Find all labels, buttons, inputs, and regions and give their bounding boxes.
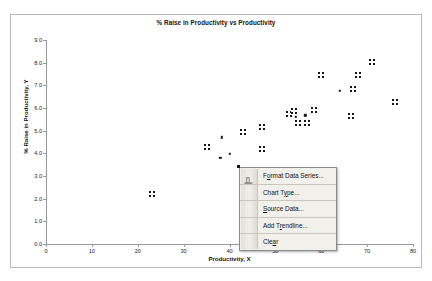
data-point-selected[interactable] bbox=[291, 108, 297, 114]
data-point[interactable] bbox=[220, 136, 222, 138]
data-point[interactable] bbox=[295, 116, 297, 118]
x-tick bbox=[92, 244, 93, 247]
y-tick bbox=[43, 85, 46, 86]
x-tick bbox=[46, 244, 47, 247]
menu-item-clear[interactable]: Clear bbox=[240, 233, 336, 250]
y-tick bbox=[43, 40, 46, 41]
menu-item-chart-type[interactable]: Chart Type... bbox=[240, 184, 336, 201]
x-tick-label: 20 bbox=[135, 248, 141, 254]
x-tick bbox=[367, 244, 368, 247]
y-tick-label: 1.0 bbox=[34, 218, 42, 224]
menu-item-add-trendline[interactable]: Add Trendline... bbox=[240, 217, 336, 234]
data-point[interactable] bbox=[338, 90, 340, 92]
y-tick-label: 6.0 bbox=[34, 105, 42, 111]
x-axis-title[interactable]: Productivity, X bbox=[46, 255, 413, 262]
y-axis-line[interactable] bbox=[46, 40, 47, 244]
y-tick-label: 5.0 bbox=[34, 128, 42, 134]
y-tick-label: 7.0 bbox=[34, 82, 42, 88]
y-tick bbox=[43, 221, 46, 222]
selection-anchor-handle bbox=[237, 165, 240, 168]
x-tick-label: 10 bbox=[89, 248, 95, 254]
y-tick-label: 2.0 bbox=[34, 196, 42, 202]
y-tick bbox=[43, 153, 46, 154]
y-tick bbox=[43, 63, 46, 64]
x-tick-label: 70 bbox=[364, 248, 370, 254]
data-point-selected[interactable] bbox=[348, 113, 354, 119]
x-tick bbox=[413, 244, 414, 247]
data-point-selected[interactable] bbox=[259, 124, 265, 130]
y-tick-label: 0.0 bbox=[34, 241, 42, 247]
x-tick bbox=[230, 244, 231, 247]
data-point-selected[interactable] bbox=[259, 146, 265, 152]
data-point-selected[interactable] bbox=[149, 191, 155, 197]
y-tick-label: 4.0 bbox=[34, 150, 42, 156]
plot-area[interactable]: 0.01.02.03.04.05.06.07.08.09.0 010203040… bbox=[46, 40, 413, 244]
data-point-selected[interactable] bbox=[350, 86, 356, 92]
data-point[interactable] bbox=[219, 157, 221, 159]
x-tick-label: 30 bbox=[181, 248, 187, 254]
data-point-selected[interactable] bbox=[311, 107, 317, 113]
chart-title[interactable]: % Raise in Productivity vs Productivity bbox=[11, 19, 421, 26]
data-point-selected[interactable] bbox=[204, 144, 210, 150]
y-tick-label: 9.0 bbox=[34, 37, 42, 43]
context-menu[interactable]: Format Data Series...Chart Type...Source… bbox=[239, 167, 337, 251]
context-menu-items[interactable]: Format Data Series...Chart Type...Source… bbox=[240, 168, 336, 250]
y-tick bbox=[43, 131, 46, 132]
y-tick-label: 3.0 bbox=[34, 173, 42, 179]
data-point[interactable] bbox=[304, 114, 306, 116]
x-tick-label: 40 bbox=[226, 248, 232, 254]
data-point-selected[interactable] bbox=[240, 129, 246, 135]
y-tick bbox=[43, 108, 46, 109]
menu-item-format-data-series[interactable]: Format Data Series... bbox=[240, 168, 336, 184]
data-point-selected[interactable] bbox=[304, 120, 310, 126]
x-tick-label: 0 bbox=[44, 248, 47, 254]
data-point-selected[interactable] bbox=[355, 72, 361, 78]
y-tick bbox=[43, 199, 46, 200]
chart-frame[interactable]: % Raise in Productivity vs Productivity … bbox=[10, 14, 422, 268]
plot-background bbox=[46, 40, 413, 244]
data-point-selected[interactable] bbox=[392, 99, 398, 105]
format-data-series-icon bbox=[244, 172, 253, 181]
x-tick bbox=[184, 244, 185, 247]
x-tick-label: 80 bbox=[410, 248, 416, 254]
y-tick bbox=[43, 176, 46, 177]
menu-item-source-data[interactable]: Source Data... bbox=[240, 200, 336, 217]
data-point-selected[interactable] bbox=[369, 59, 375, 65]
y-tick-label: 8.0 bbox=[34, 60, 42, 66]
data-point[interactable] bbox=[228, 153, 230, 155]
y-axis-title[interactable]: % Raise in Productivity, Y bbox=[22, 57, 29, 177]
x-tick bbox=[138, 244, 139, 247]
data-point-selected[interactable] bbox=[318, 72, 324, 78]
data-point-selected[interactable] bbox=[295, 120, 301, 126]
